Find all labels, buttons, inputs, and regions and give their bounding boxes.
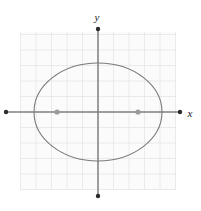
y-axis-label: y — [94, 11, 100, 23]
left-focus-point — [54, 109, 59, 114]
y-axis-bottom-end-marker — [96, 194, 100, 198]
y-axis-top-end-marker — [96, 27, 100, 31]
ellipse-graph-figure: y x — [0, 0, 201, 211]
x-axis-right-end-marker — [178, 110, 182, 114]
x-axis-label: x — [187, 107, 193, 119]
x-axis-left-end-marker — [4, 110, 8, 114]
graph-canvas: y x — [0, 0, 201, 211]
right-focus-point — [135, 109, 140, 114]
